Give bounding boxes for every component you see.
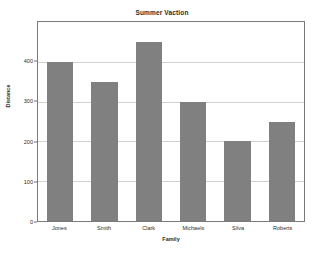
bar-slot (260, 22, 304, 221)
plot-area (37, 21, 305, 222)
bar (180, 102, 207, 221)
y-axis-tick-label: 0 (30, 219, 33, 225)
y-axis-tick-label: 400 (24, 58, 33, 64)
bar (91, 82, 118, 221)
x-axis-tick-label: Roberts (260, 225, 305, 231)
x-axis-tick-label: Silva (216, 225, 261, 231)
x-axis-title: Family (37, 236, 305, 242)
bar (136, 42, 163, 221)
bar (224, 141, 251, 221)
bar-chart-figure: Summer Vaction Distance 0100200300400 Jo… (0, 0, 324, 263)
bar (47, 62, 74, 221)
bar-slot (127, 22, 171, 221)
y-axis-tick-label: 300 (24, 98, 33, 104)
x-axis-tick-label: Michaels (171, 225, 216, 231)
bar-slot (171, 22, 215, 221)
bar-series (38, 22, 304, 221)
y-axis-tick-label: 100 (24, 179, 33, 185)
y-axis-tick-labels: 0100200300400 (14, 21, 33, 222)
x-axis-tick-label: Clark (126, 225, 171, 231)
x-axis-tick-label: Smith (82, 225, 127, 231)
bar-slot (215, 22, 259, 221)
bar-slot (82, 22, 126, 221)
y-axis-tick-label: 200 (24, 139, 33, 145)
x-axis-tick-labels: JonesSmithClarkMichaelsSilvaRoberts (37, 225, 305, 231)
x-axis-tick-label: Jones (37, 225, 82, 231)
chart-title: Summer Vaction (0, 9, 324, 16)
bar (269, 122, 296, 222)
y-axis-title: Distance (5, 71, 11, 121)
bar-slot (38, 22, 82, 221)
